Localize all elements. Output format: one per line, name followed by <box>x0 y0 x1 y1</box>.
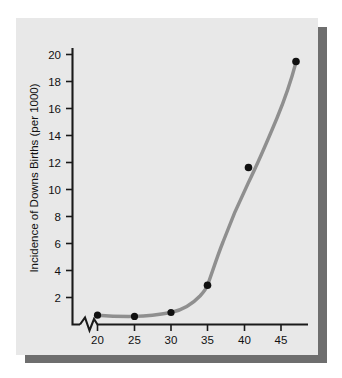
x-axis: 20 25 30 35 40 45 <box>73 308 309 346</box>
data-point <box>167 309 174 316</box>
x-tick-label: 25 <box>128 334 141 346</box>
data-series-line <box>98 64 296 316</box>
x-tick-label: 35 <box>201 334 214 346</box>
x-tick-label: 20 <box>91 334 104 346</box>
x-tick-label: 40 <box>238 334 251 346</box>
x-axis-tick-labels: 20 25 30 35 40 45 <box>91 334 287 346</box>
data-point <box>292 58 300 66</box>
figure-root: 20 18 16 14 12 10 8 6 4 2 <box>0 0 342 378</box>
panel-drop-shadow-right <box>318 27 327 363</box>
axis-break-zigzag <box>80 318 308 331</box>
y-tick-label: 12 <box>48 157 61 169</box>
y-tick-label: 10 <box>48 184 61 196</box>
line-chart: 20 18 16 14 12 10 8 6 4 2 <box>16 18 318 355</box>
y-tick-label: 14 <box>48 130 61 142</box>
data-point <box>94 312 101 319</box>
y-axis-tick-labels: 20 18 16 14 12 10 8 6 4 2 <box>48 49 61 304</box>
data-point <box>204 282 212 290</box>
y-tick-label: 16 <box>48 103 61 115</box>
y-tick-label: 2 <box>55 292 61 304</box>
y-tick-label: 18 <box>48 76 61 88</box>
y-axis: 20 18 16 14 12 10 8 6 4 2 <box>48 48 72 308</box>
x-tick-label: 45 <box>275 334 288 346</box>
y-tick-label: 20 <box>48 49 61 61</box>
panel-drop-shadow-bottom <box>25 354 327 363</box>
y-tick-label: 6 <box>55 238 61 250</box>
x-tick-label: 30 <box>165 334 178 346</box>
y-axis-title: Incidence of Downs Births (per 1000) <box>28 83 40 272</box>
data-point <box>131 313 138 320</box>
y-tick-label: 8 <box>55 211 61 223</box>
data-points <box>94 58 300 320</box>
y-tick-label: 4 <box>55 265 62 277</box>
data-point <box>245 164 253 172</box>
